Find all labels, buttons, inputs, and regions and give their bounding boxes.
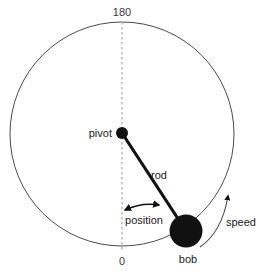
- pendulum-figure-svg: 180 0 pivot rod bob position speed: [0, 0, 257, 272]
- angle-top-label: 180: [113, 6, 131, 18]
- rod-label: rod: [151, 169, 167, 181]
- pivot-point: [116, 127, 128, 139]
- speed-arrow: [200, 196, 228, 247]
- position-arrow: [125, 204, 159, 210]
- speed-label: speed: [226, 216, 256, 228]
- angle-bottom-label: 0: [119, 255, 125, 267]
- pendulum-diagram: 180 0 pivot rod bob position speed: [0, 0, 257, 272]
- position-label: position: [125, 214, 163, 226]
- bob-point: [170, 215, 203, 248]
- bob-label: bob: [179, 253, 197, 265]
- pivot-label: pivot: [89, 127, 112, 139]
